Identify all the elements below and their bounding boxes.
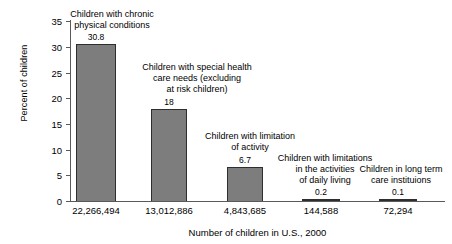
category-label-line: Children with chronic bbox=[52, 9, 172, 20]
y-tick-label-30: 30 bbox=[40, 43, 62, 53]
y-tick-label-10: 10 bbox=[40, 146, 62, 156]
category-label-line: Children with special health bbox=[124, 62, 270, 73]
category-label-special-health-care-needs: Children with special health care needs … bbox=[124, 62, 270, 95]
y-tick-mark-5 bbox=[66, 175, 70, 176]
bar-chronic-physical-conditions bbox=[76, 44, 116, 202]
bar-chart: Percent of children 35 30 25 20 15 10 5 … bbox=[0, 0, 452, 244]
bar-value-limitation-of-activity: 6.7 bbox=[227, 156, 263, 165]
x-tick-label-long-term-care: 72,294 bbox=[358, 205, 438, 216]
bar-special-health-care-needs bbox=[151, 109, 187, 202]
y-axis-title: Percent of children bbox=[19, 3, 29, 163]
bar-value-limitations-daily-living: 0.2 bbox=[302, 188, 340, 197]
category-label-line: care instituions bbox=[351, 175, 451, 186]
y-axis-line bbox=[70, 20, 71, 202]
y-tick-label-5: 5 bbox=[40, 171, 62, 181]
bar-value-chronic-physical-conditions: 30.8 bbox=[76, 33, 116, 42]
bar-value-special-health-care-needs: 18 bbox=[151, 98, 187, 107]
x-tick-label-limitation-of-activity: 4,843,685 bbox=[205, 205, 285, 216]
y-tick-mark-20 bbox=[66, 98, 70, 99]
y-tick-label-25: 25 bbox=[40, 69, 62, 79]
y-tick-mark-15 bbox=[66, 124, 70, 125]
category-label-long-term-care: Children in long term care instituions bbox=[351, 164, 451, 186]
x-tick-label-limitations-daily-living: 144,588 bbox=[281, 205, 361, 216]
category-label-line: care needs (excluding bbox=[124, 73, 270, 84]
y-tick-mark-25 bbox=[66, 73, 70, 74]
category-label-line: Children with limitations bbox=[272, 153, 378, 164]
x-axis-title: Number of children in U.S., 2000 bbox=[70, 227, 445, 238]
bar-limitation-of-activity bbox=[227, 167, 263, 202]
category-label-line: Children in long term bbox=[351, 164, 451, 175]
x-tick-label-special-health-care-needs: 13,012,886 bbox=[129, 205, 209, 216]
category-label-chronic-physical-conditions: Children with chronic physical condition… bbox=[52, 9, 172, 31]
y-tick-mark-10 bbox=[66, 150, 70, 151]
category-label-line: physical conditions bbox=[52, 20, 172, 31]
category-label-line: of activity bbox=[192, 142, 308, 153]
category-label-line: at risk children) bbox=[124, 84, 270, 95]
bar-value-long-term-care: 0.1 bbox=[379, 188, 417, 197]
x-tick-label-chronic-physical-conditions: 22,266,494 bbox=[56, 205, 136, 216]
x-axis-line bbox=[70, 201, 445, 202]
y-tick-label-20: 20 bbox=[40, 94, 62, 104]
y-tick-label-15: 15 bbox=[40, 120, 62, 130]
y-tick-mark-30 bbox=[66, 47, 70, 48]
category-label-limitation-of-activity: Children with limitation of activity bbox=[192, 131, 308, 153]
category-label-line: Children with limitation bbox=[192, 131, 308, 142]
